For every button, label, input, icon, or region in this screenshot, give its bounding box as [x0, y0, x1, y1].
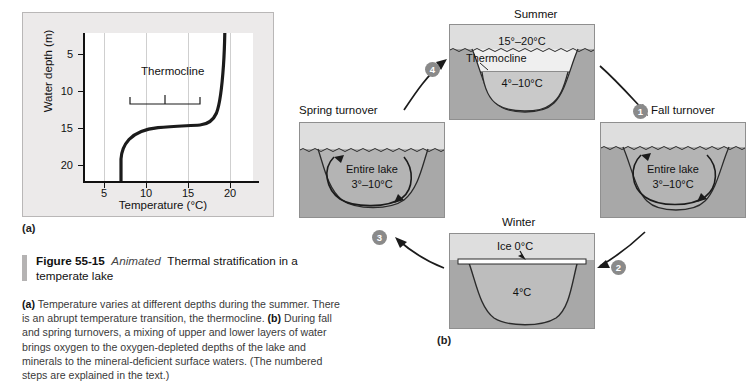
panel-title-summer: Summer: [514, 8, 557, 20]
figure-part-b-label: (b): [437, 334, 451, 346]
step-badge-2: 2: [611, 260, 626, 275]
spring-temp-range: 3°–10°C: [300, 178, 444, 190]
chart-x-axis-title: Temperature (°C): [63, 199, 263, 211]
x-tick-label-10: 10: [131, 187, 161, 199]
figure-number: Figure 55-15: [36, 254, 105, 267]
y-tick-10: [78, 91, 83, 92]
winter-temp-label: 4°C: [450, 286, 594, 298]
fall-entire-lake-label: Entire lake: [601, 163, 745, 175]
figure-caption-title: Figure 55-15 Animated Thermal stratifica…: [36, 253, 336, 283]
lake-panel-fall-turnover: Entire lake 3°–10°C: [600, 122, 746, 218]
lake-panel-summer: 15°–20°C Thermocline 4°–10°C: [449, 24, 595, 120]
winter-ice-label: Ice 0°C: [450, 240, 580, 252]
caption-part-a-tag: (a): [22, 298, 35, 310]
panel-title-spring-turnover: Spring turnover: [299, 104, 378, 116]
step-badge-3: 3: [372, 230, 387, 245]
step-badge-4: 4: [425, 62, 440, 77]
summer-hypolimnion-temp: 4°–10°C: [450, 77, 594, 89]
chart-plot-area: [83, 33, 253, 181]
figure-part-a-label: (a): [22, 222, 35, 234]
chart-x-axis: [83, 181, 259, 183]
fall-temp-range: 3°–10°C: [601, 178, 745, 190]
temperature-profile-curve: [83, 33, 253, 181]
panel-title-winter: Winter: [502, 216, 535, 228]
x-tick-label-20: 20: [215, 187, 245, 199]
lake-panel-spring-turnover: Entire lake 3°–10°C: [299, 122, 445, 218]
y-tick-15: [78, 128, 83, 129]
summer-thermocline-label: Thermocline: [466, 52, 594, 64]
y-tick-label-20: 20: [31, 159, 73, 171]
spring-entire-lake-label: Entire lake: [300, 163, 444, 175]
panel-title-fall-turnover: Fall turnover: [651, 104, 715, 116]
caption-accent-bar: [22, 255, 27, 281]
thermocline-annotation-label: Thermocline: [141, 65, 204, 77]
y-tick-20: [78, 165, 83, 166]
caption-part-b-tag: (b): [268, 312, 282, 324]
x-tick-label-15: 15: [173, 187, 203, 199]
figure-caption-body: (a) Temperature varies at different dept…: [22, 297, 344, 382]
x-tick-label-5: 5: [89, 187, 119, 199]
chart-y-axis: [83, 33, 85, 182]
step-badge-1: 1: [633, 104, 648, 119]
temperature-depth-chart: 5 10 15 20 5 10 15 20 Water depth (m) Te…: [22, 12, 274, 217]
chart-y-axis-title: Water depth (m): [42, 16, 54, 126]
y-tick-5: [78, 54, 83, 55]
lake-panel-winter: Ice 0°C 4°C: [449, 233, 595, 329]
animated-tag: Animated: [111, 254, 160, 267]
summer-epilimnion-temp: 15°–20°C: [450, 35, 594, 47]
